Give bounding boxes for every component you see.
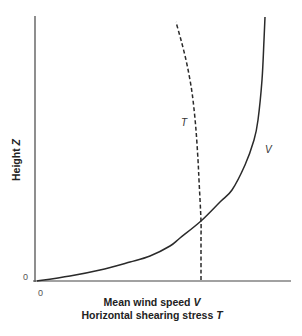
y-axis-title-text: Height	[10, 148, 22, 181]
wind-speed-curve-label: V	[265, 144, 273, 155]
x-axis-title-line1-text: Mean wind speed	[104, 296, 191, 308]
wind-profile-diagram: 0 0 T V Height Z Mean wind speed V Horiz…	[0, 0, 302, 336]
x-origin-label: 0	[38, 288, 43, 298]
y-origin-label: 0	[23, 272, 28, 282]
x-axis-title-line2-var: T	[216, 309, 224, 321]
shear-stress-curve	[176, 22, 201, 280]
x-axis-title-line2: Horizontal shearing stress T	[81, 309, 224, 321]
wind-speed-curve	[37, 17, 265, 281]
y-axis-title: Height Z	[10, 138, 22, 181]
x-axis-title-line2-text: Horizontal shearing stress	[81, 309, 213, 321]
x-axis-title-line1-var: V	[193, 296, 201, 308]
shear-stress-curve-label: T	[181, 117, 188, 128]
x-axis-title-line1: Mean wind speed V	[104, 296, 202, 308]
y-axis-title-var: Z	[10, 138, 22, 146]
